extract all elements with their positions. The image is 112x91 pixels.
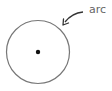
arrow-icon (63, 12, 83, 25)
arc-label: arc (89, 4, 106, 16)
center-point (36, 50, 40, 54)
